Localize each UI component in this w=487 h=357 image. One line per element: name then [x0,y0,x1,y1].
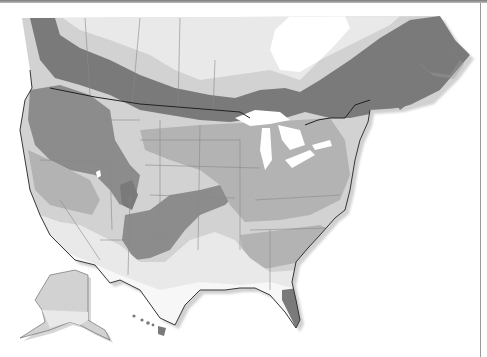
zone-4-south-texas [180,315,195,328]
zone-map [0,0,487,357]
alaska-inset [20,270,113,343]
map-frame [0,0,487,357]
